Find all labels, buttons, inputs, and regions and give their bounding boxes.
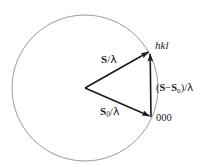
lambda-symbol: λ bbox=[110, 53, 117, 66]
label-origin-point-000: 000 bbox=[156, 113, 172, 124]
lambda-symbol: λ bbox=[113, 105, 120, 118]
ewald-sphere-diagram: S/λ S0/λ (S−S0)/λ hkl 000 bbox=[0, 0, 214, 167]
scattering-vector-arrow bbox=[150, 54, 151, 117]
label-reflection-point-hkl: hkl bbox=[155, 40, 168, 51]
label-s-minus-s0-over-lambda: (S−S0)/λ bbox=[156, 82, 193, 95]
label-s-over-lambda: S/λ bbox=[101, 54, 117, 65]
lambda-symbol: λ bbox=[187, 81, 193, 93]
label-s0-over-lambda: S0/λ bbox=[100, 106, 119, 118]
